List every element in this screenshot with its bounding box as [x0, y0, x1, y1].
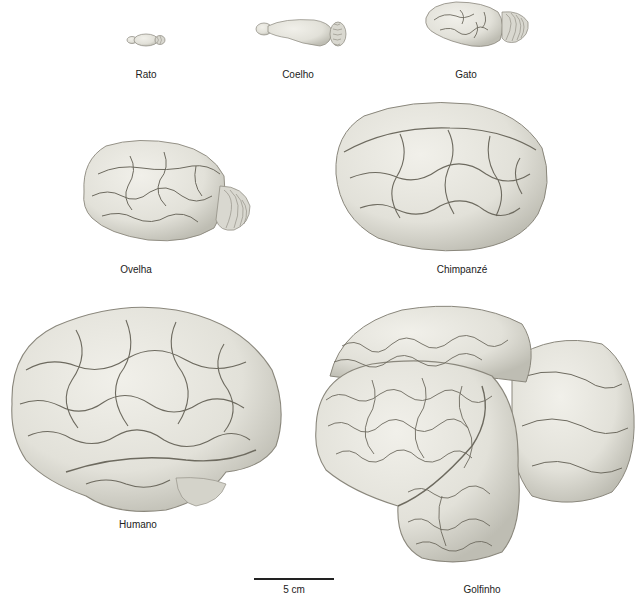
scale-bar — [254, 578, 334, 580]
label-sheep: Ovelha — [120, 264, 152, 275]
scale-bar-label: 5 cm — [283, 584, 305, 595]
label-dolphin: Golfinho — [463, 584, 500, 595]
brain-rabbit — [254, 14, 350, 54]
brain-human — [6, 300, 288, 516]
label-human: Humano — [119, 519, 157, 530]
label-cat: Gato — [455, 69, 477, 80]
brain-rat — [124, 30, 168, 50]
label-chimpanzee: Chimpanzé — [437, 264, 488, 275]
label-rabbit: Coelho — [282, 69, 314, 80]
brain-chimpanzee — [330, 98, 556, 254]
brain-cat — [420, 0, 532, 52]
label-rat: Rato — [135, 69, 156, 80]
brain-dolphin — [312, 296, 638, 568]
brain-sheep — [78, 136, 254, 246]
